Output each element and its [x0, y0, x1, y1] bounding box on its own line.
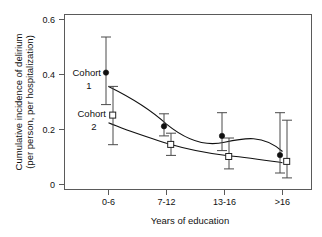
figure-container: 0 0.2 0.4 0.6 0-6 7-12 13-16 >16 Years o…: [0, 0, 322, 237]
x-axis-ticks: [109, 190, 283, 196]
x-axis-title: Years of education: [151, 215, 229, 226]
y-axis-ticks: [59, 20, 65, 185]
y-tick-label-0.4: 0.4: [42, 70, 55, 80]
fit-curve-cohort-2: [109, 123, 283, 163]
errorbar-cohort1-13-16: [217, 113, 227, 151]
y-tick-label-0.6: 0.6: [42, 15, 55, 25]
y-axis-title-line-2: (per person, per hospitalization): [24, 35, 35, 169]
data-point-cohort2-13-16: [226, 154, 232, 160]
cohort-1-label: Cohort: [72, 67, 101, 78]
incidence-line-chart: 0 0.2 0.4 0.6 0-6 7-12 13-16 >16 Years o…: [0, 0, 322, 237]
x-tick-label-13-16: 13-16: [213, 197, 236, 207]
x-tick-label-gt16: >16: [275, 197, 290, 207]
data-point-cohort2-7-12: [168, 141, 174, 147]
y-tick-label-0.2: 0.2: [42, 125, 55, 135]
data-point-cohort2-gt16: [284, 158, 290, 164]
errorbar-cohort2-gt16: [282, 120, 292, 178]
data-point-cohort1-13-16: [219, 133, 224, 138]
y-axis-tick-labels: 0 0.2 0.4 0.6: [42, 15, 55, 190]
data-point-cohort1-gt16: [277, 152, 282, 157]
series-cohort-2: [108, 86, 292, 177]
y-axis-title-line-1: Cumulative incidence of delirium: [13, 34, 24, 171]
annotation-cohort-1: Cohort 1: [72, 67, 101, 91]
data-point-cohort2-0-6: [110, 112, 116, 118]
data-point-cohort1-0-6: [103, 70, 108, 75]
data-point-cohort1-7-12: [161, 124, 166, 129]
fit-curve-cohort-1: [109, 86, 283, 151]
plot-frame: [65, 15, 312, 190]
cohort-1-number: 1: [86, 80, 91, 91]
annotation-cohort-2: Cohort 2: [77, 108, 106, 132]
x-tick-label-7-12: 7-12: [157, 197, 175, 207]
x-axis-tick-labels: 0-6 7-12 13-16 >16: [102, 197, 290, 207]
x-tick-label-0-6: 0-6: [102, 197, 115, 207]
cohort-2-number: 2: [91, 121, 96, 132]
cohort-2-label: Cohort: [77, 108, 106, 119]
y-tick-label-0: 0: [50, 180, 55, 190]
series-cohort-1: [101, 37, 285, 173]
